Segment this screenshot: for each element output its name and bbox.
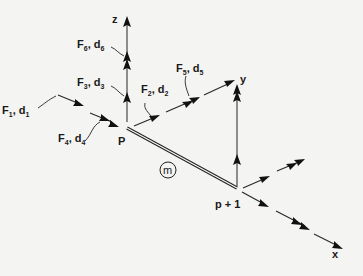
svg-text:m: m	[163, 164, 172, 176]
z-axis-at-P	[123, 16, 131, 122]
force-label-4: F4, d4	[58, 132, 86, 146]
member-m	[127, 128, 237, 188]
axis-label-y: y	[240, 73, 247, 85]
svg-text:F4, d4: F4, d4	[58, 132, 86, 146]
svg-text:p + 1: p + 1	[215, 198, 240, 210]
svg-text:F5, d5: F5, d5	[176, 62, 204, 76]
z-axis-at-p1	[233, 84, 241, 186]
node-label-p-plus-1: p + 1	[215, 198, 240, 210]
y-axis-at-p1	[243, 159, 305, 188]
svg-text:P: P	[118, 135, 125, 147]
axis-label-x: x	[332, 248, 339, 260]
svg-text:x: x	[332, 248, 339, 260]
node-label-P: P	[118, 135, 125, 147]
svg-text:F6, d6: F6, d6	[77, 38, 105, 52]
y-axis-at-P	[134, 80, 235, 126]
svg-text:F3, d3: F3, d3	[77, 76, 105, 90]
beam-element-diagram: z y x P p + 1 m F1, d1 F4, d4 F3, d3 F6,…	[0, 0, 363, 276]
force-label-6: F6, d6	[77, 38, 105, 52]
axis-label-z: z	[112, 13, 118, 25]
svg-text:F1, d1: F1, d1	[2, 104, 30, 118]
force-label-2: F2, d2	[141, 83, 169, 97]
svg-text:F2, d2: F2, d2	[141, 83, 169, 97]
x-axis-at-p1	[242, 192, 343, 249]
force-label-1: F1, d1	[2, 104, 30, 118]
svg-text:z: z	[112, 13, 118, 25]
svg-text:y: y	[240, 73, 247, 85]
member-label: m	[160, 162, 176, 178]
force-label-5: F5, d5	[176, 62, 204, 76]
x-axis-at-P	[58, 95, 119, 127]
force-label-3: F3, d3	[77, 76, 105, 90]
